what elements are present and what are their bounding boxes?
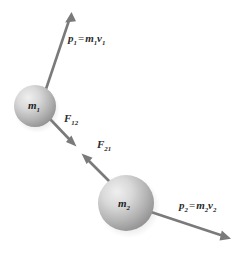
sphere-m1-label: m1 <box>28 100 40 114</box>
vector-p2-arrow <box>151 212 231 241</box>
vector-label-f21: F21 <box>97 139 111 153</box>
sphere-m1-label-sub: 1 <box>37 106 40 113</box>
vector-label-p2-equals: = <box>188 199 196 211</box>
vector-label-f12-sub: 12 <box>71 119 78 126</box>
vector-label-f12: F12 <box>64 113 78 127</box>
vector-label-p2: p2=m2v2 <box>179 200 216 214</box>
sphere-m2-label-base: m <box>118 197 127 209</box>
sphere-m2-label-sub: 2 <box>127 204 130 211</box>
sphere-m2-label: m2 <box>118 198 130 212</box>
vector-label-p1-mass: m <box>85 32 94 44</box>
vector-label-p2-mass: m <box>196 199 205 211</box>
vector-label-p1: p1=m1v1 <box>68 33 105 47</box>
sphere-m1-label-base: m <box>28 99 37 111</box>
physics-diagram: p1=m1v1 F12 F21 p2=m2v2 m1 m2 <box>0 0 245 256</box>
vector-label-f21-sub: 21 <box>104 145 111 152</box>
vector-f21-arrow <box>82 154 111 183</box>
vector-p1-arrow <box>45 12 76 92</box>
vector-label-p1-equals: = <box>77 32 85 44</box>
diagram-canvas <box>0 0 245 256</box>
vector-label-p2-velocity-sub: 2 <box>213 206 216 213</box>
vector-label-p1-velocity-sub: 1 <box>102 39 105 46</box>
